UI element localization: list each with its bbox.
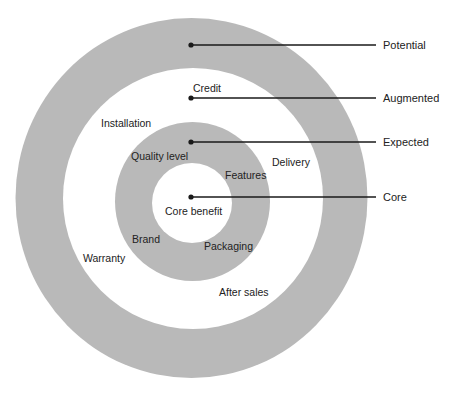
item-after-sales: After sales: [219, 286, 269, 298]
item-warranty: Warranty: [83, 252, 126, 264]
item-installation: Installation: [101, 117, 151, 129]
item-core-benefit: Core benefit: [165, 205, 222, 217]
item-delivery: Delivery: [272, 156, 311, 168]
item-quality-level: Quality level: [131, 150, 188, 162]
potential-dot-icon: [188, 42, 193, 47]
item-credit: Credit: [193, 82, 221, 94]
expected-dot-icon: [188, 139, 193, 144]
product-levels-diagram: Potential Augmented Expected Core Credit…: [0, 0, 456, 395]
level-label-augmented: Augmented: [383, 92, 439, 104]
item-features: Features: [225, 169, 266, 181]
level-label-core: Core: [383, 191, 407, 203]
item-brand: Brand: [132, 233, 160, 245]
level-label-expected: Expected: [383, 136, 429, 148]
level-label-potential: Potential: [383, 39, 426, 51]
augmented-dot-icon: [188, 95, 193, 100]
core-dot-icon: [188, 194, 193, 199]
item-packaging: Packaging: [204, 240, 253, 252]
core-circle: [152, 163, 232, 243]
